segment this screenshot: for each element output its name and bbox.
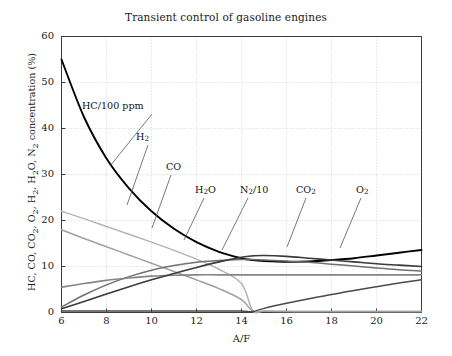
x-tick-label: 18 (312, 315, 352, 326)
series-label-text: O (208, 184, 216, 195)
series-label-o2: O2 (356, 184, 368, 196)
series-label-co2: CO2 (296, 184, 316, 196)
y-tick-label: 50 (14, 76, 54, 87)
series-label-text: O (356, 184, 364, 195)
x-tick-label: 6 (42, 315, 82, 326)
series-label-h2o: H2O (195, 184, 216, 196)
x-tick-label: 8 (87, 315, 127, 326)
chart-figure: Transient control of gasoline engines HC… (0, 0, 452, 356)
plot-canvas (0, 0, 452, 356)
y-tick-label: 40 (14, 122, 54, 133)
x-tick-label: 10 (132, 315, 172, 326)
series-label-sub: 2 (144, 134, 149, 143)
series-label-n2: N2/10 (240, 184, 268, 196)
grid-lines (62, 37, 422, 313)
series-label-sub: 2 (311, 187, 316, 196)
series-label-h2: H2 (136, 131, 149, 143)
y-tick-label: 10 (14, 260, 54, 271)
series-label-text: CO (296, 184, 311, 195)
y-tick-label: 60 (14, 30, 54, 41)
x-tick-label: 22 (402, 315, 442, 326)
x-tick-label: 16 (267, 315, 307, 326)
x-tick-label: 14 (222, 315, 262, 326)
x-tick-label: 20 (357, 315, 397, 326)
y-tick-label: 20 (14, 214, 54, 225)
series-label-text: /10 (253, 184, 268, 195)
x-tick-label: 12 (177, 315, 217, 326)
series-label-hc: HC/100 ppm (82, 100, 144, 111)
series-label-co: CO (166, 161, 181, 172)
series-label-sub: 2 (364, 187, 369, 196)
y-tick-label: 30 (14, 168, 54, 179)
